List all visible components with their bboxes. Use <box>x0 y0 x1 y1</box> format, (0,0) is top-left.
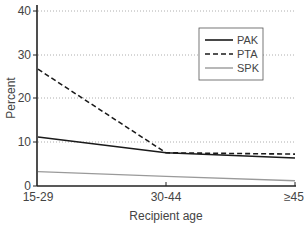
y-tick-label-20: 20 <box>18 91 32 105</box>
y-tick-label-30: 30 <box>18 48 32 62</box>
y-tick-label-40: 40 <box>18 4 32 18</box>
x-tick-label-30-44: 30-44 <box>151 190 182 204</box>
legend: PAK PTA SPK <box>199 28 263 80</box>
x-tick-label-15-29: 15-29 <box>23 190 54 204</box>
y-axis-title: Percent <box>4 77 18 119</box>
x-axis-title: Recipient age <box>129 209 203 223</box>
legend-label-pta: PTA <box>237 48 258 60</box>
x-tick-label-45-plus: ≥45 <box>284 190 304 204</box>
legend-label-pak: PAK <box>237 34 259 46</box>
line-chart: 40 30 20 10 0 15-29 30-44 ≥45 Recipient … <box>0 0 308 227</box>
y-tick-label-10: 10 <box>18 135 32 149</box>
series-line-pak <box>38 137 295 158</box>
series-line-spk <box>38 172 295 181</box>
legend-label-spk: SPK <box>237 62 260 74</box>
